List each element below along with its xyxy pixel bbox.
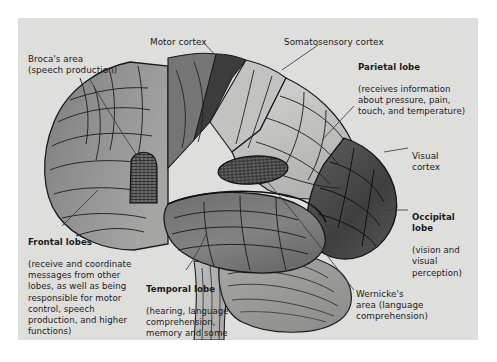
label-visual-cortex: Visual cortex xyxy=(412,140,440,184)
label-temporal-lobe-body: (hearing, language comprehension, memory… xyxy=(146,306,229,340)
label-occipital-lobe-body: (vision and visual perception) xyxy=(412,245,462,278)
label-motor-cortex: Motor cortex xyxy=(150,26,207,59)
label-wernickes-area: Wernicke's area (language comprehension) xyxy=(356,278,428,333)
label-parietal-lobe-body: (receives information about pressure, pa… xyxy=(358,84,465,117)
label-motor-cortex-body: Motor cortex xyxy=(150,37,207,48)
label-visual-cortex-body: Visual cortex xyxy=(412,151,440,173)
label-frontal-lobes: Frontal lobes (receive and coordinate me… xyxy=(28,226,131,340)
label-somatosensory-cortex-body: Somatosensory cortex xyxy=(284,37,384,48)
temporal-lobe-shape xyxy=(164,192,325,273)
label-wernickes-area-body: Wernicke's area (language comprehension) xyxy=(356,289,428,322)
brocas-area-patch xyxy=(130,152,157,203)
label-brocas-area: Broca's area (speech production) xyxy=(28,43,117,87)
brain-diagram-figure: Motor cortex Somatosensory cortex Broca'… xyxy=(0,0,497,362)
label-frontal-lobes-heading: Frontal lobes xyxy=(28,237,131,248)
label-brocas-area-body: Broca's area (speech production) xyxy=(28,54,117,76)
label-occipital-lobe-heading: Occipital lobe xyxy=(412,212,462,234)
leader-visual xyxy=(384,148,408,152)
label-temporal-lobe-heading: Temporal lobe xyxy=(146,284,229,295)
diagram-panel: Motor cortex Somatosensory cortex Broca'… xyxy=(18,18,478,340)
label-parietal-lobe-heading: Parietal lobe xyxy=(358,62,465,73)
label-frontal-lobes-body: (receive and coordinate messages from ot… xyxy=(28,259,131,337)
label-temporal-lobe: Temporal lobe (hearing, language compreh… xyxy=(146,273,229,340)
label-parietal-lobe: Parietal lobe (receives information abou… xyxy=(358,51,465,129)
label-occipital-lobe: Occipital lobe (vision and visual percep… xyxy=(412,201,462,290)
